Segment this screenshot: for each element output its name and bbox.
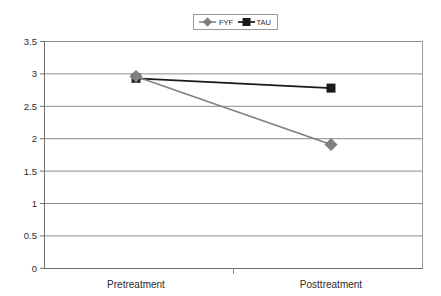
y-tick-label: 3.5	[24, 36, 37, 47]
chart-background	[0, 0, 441, 296]
chart-legend[interactable]: FYF TAU	[194, 15, 278, 30]
x-category-label-pretreatment: Pretreatment	[107, 279, 165, 290]
legend-square-marker-icon	[243, 18, 251, 26]
line-chart: 3.5 3 2.5 2 1.5 1 0.5 0 Pretreatment Pos…	[0, 0, 441, 296]
y-tick-label: 0	[32, 263, 37, 274]
chart-canvas: 3.5 3 2.5 2 1.5 1 0.5 0 Pretreatment Pos…	[0, 0, 441, 296]
x-category-label-posttreatment: Posttreatment	[300, 279, 362, 290]
y-tick-label: 1	[32, 198, 37, 209]
y-tick-label: 2.5	[24, 101, 37, 112]
y-tick-label: 3	[32, 68, 37, 79]
series-tau-point-posttreatment	[327, 84, 336, 93]
y-tick-label: 0.5	[24, 230, 37, 241]
y-tick-label: 1.5	[24, 166, 37, 177]
legend-label-fyf: FYF	[219, 18, 234, 27]
legend-label-tau: TAU	[257, 18, 271, 27]
y-tick-label: 2	[32, 133, 37, 144]
